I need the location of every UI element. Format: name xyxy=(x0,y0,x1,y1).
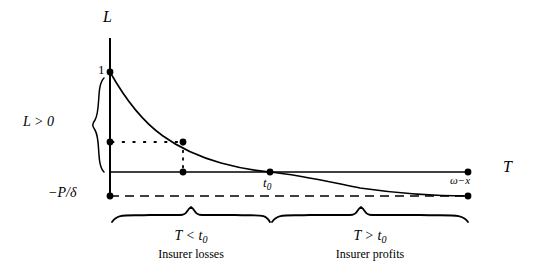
point-guide-on-axis-x xyxy=(180,169,187,176)
y-axis-label: L xyxy=(103,8,112,26)
bracket-group-losses: T < t0 Insurer losses xyxy=(112,228,270,261)
asymptote-label: −P/δ xyxy=(48,185,76,201)
bracket-losses-math-symbol: T < t xyxy=(175,228,203,243)
initial-value-label: 1 xyxy=(98,62,105,78)
bracket-losses-description: Insurer losses xyxy=(112,247,270,261)
bracket-profits-math-subscript: 0 xyxy=(381,234,386,245)
point-guide-on-curve xyxy=(180,139,187,146)
point-guide-on-axis-y xyxy=(107,139,114,146)
bracket-profits-math: T > t0 xyxy=(272,228,468,247)
point-asymptote-start xyxy=(107,193,114,200)
point-asymptote-end xyxy=(465,193,472,200)
bracket-group-profits: T > t0 Insurer profits xyxy=(272,228,468,261)
bracket-losses-math: T < t0 xyxy=(112,228,270,247)
bracket-losses-math-subscript: 0 xyxy=(202,234,207,245)
region-positive-label: L > 0 xyxy=(23,114,54,130)
brace-profits xyxy=(272,207,468,222)
bracket-profits-description: Insurer profits xyxy=(272,247,468,261)
brace-l-positive xyxy=(93,78,104,172)
t0-label-subscript: 0 xyxy=(267,182,272,192)
t0-label: t0 xyxy=(263,175,271,192)
brace-losses xyxy=(112,207,270,222)
loss-curve xyxy=(110,72,468,196)
point-initial-value xyxy=(107,69,114,76)
bracket-profits-math-symbol: T > t xyxy=(354,228,382,243)
x-axis-endpoint-label: ω−x xyxy=(450,174,470,186)
x-axis-label: T xyxy=(503,158,512,176)
